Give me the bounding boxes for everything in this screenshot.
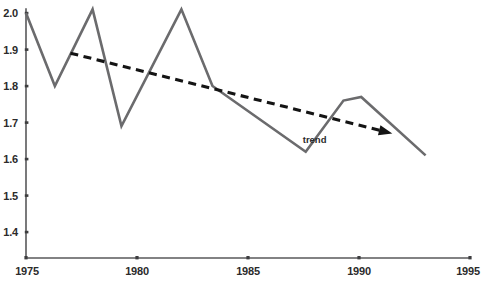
y-axis-tick-label: 1.9	[3, 44, 18, 56]
y-axis-tick-label: 2.0	[3, 7, 18, 19]
data-series-line	[26, 9, 426, 155]
x-axis-tick-label: 1985	[236, 265, 260, 277]
x-axis: 19751980198519901995	[15, 256, 480, 277]
y-axis-tick	[25, 231, 29, 234]
y-axis-tick-labels: 1.41.51.61.71.81.92.0	[3, 7, 19, 238]
x-axis-tick-label: 1980	[125, 265, 149, 277]
x-axis-tick-labels: 19751980198519901995	[15, 265, 480, 277]
x-axis-tick	[246, 256, 249, 259]
x-axis-tick-label: 1995	[456, 265, 480, 277]
y-axis: 1.41.51.61.71.81.92.0	[3, 7, 28, 258]
trend-label: trend	[303, 134, 327, 145]
y-axis-tick	[25, 85, 29, 88]
x-axis-tick	[468, 256, 471, 259]
y-axis-tick-label: 1.7	[3, 117, 18, 129]
line-chart: 1.41.51.61.71.81.92.0 197519801985199019…	[0, 0, 486, 295]
y-axis-tick-label: 1.5	[3, 190, 18, 202]
y-axis-tick-label: 1.4	[3, 226, 19, 238]
annotations-group: trend	[303, 134, 327, 145]
trend-line	[70, 53, 381, 131]
chart-container: 1.41.51.61.71.81.92.0 197519801985199019…	[0, 0, 486, 295]
trend-series-group	[70, 53, 392, 135]
x-axis-tick	[24, 256, 27, 259]
y-axis-tick	[25, 48, 29, 51]
x-axis-tick	[135, 256, 138, 259]
y-axis-tick	[25, 121, 29, 124]
data-series-group	[26, 9, 426, 155]
y-axis-tick-label: 1.8	[3, 80, 18, 92]
x-axis-tick-label: 1975	[15, 265, 39, 277]
x-axis-tick	[357, 256, 360, 259]
x-axis-tick-label: 1990	[347, 265, 371, 277]
y-axis-tick	[25, 194, 29, 197]
y-axis-tick	[25, 158, 29, 161]
trend-arrow-icon	[378, 125, 392, 135]
y-axis-tick-label: 1.6	[3, 153, 18, 165]
